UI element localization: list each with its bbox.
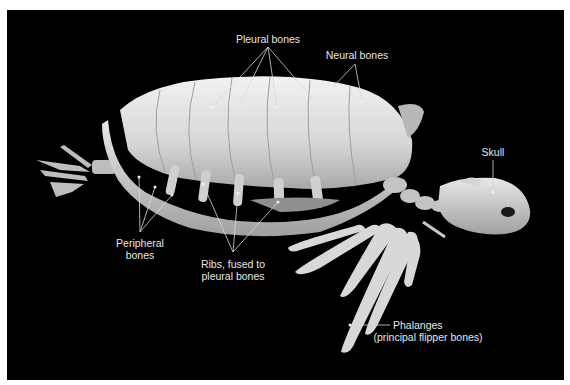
label-phalanges-line2: (principal flipper bones) (363, 331, 493, 343)
label-ribs: Ribs, fused to pleural bones (193, 258, 273, 282)
turtle-skeleton-figure: Pleural bones Neural bones Skull Periphe… (7, 10, 564, 380)
label-peripheral-line1: Peripheral (110, 237, 170, 249)
label-peripheral-line2: bones (110, 249, 170, 261)
label-neural-bones: Neural bones (323, 49, 391, 61)
label-ribs-line2: pleural bones (193, 270, 273, 282)
label-peripheral-bones: Peripheral bones (110, 237, 170, 261)
label-phalanges: Phalanges (principal flipper bones) (363, 319, 493, 343)
label-phalanges-line1: Phalanges (363, 319, 493, 331)
label-skull: Skull (477, 146, 509, 158)
label-ribs-line1: Ribs, fused to (193, 258, 273, 270)
label-pleural-bones: Pleural bones (233, 33, 303, 45)
